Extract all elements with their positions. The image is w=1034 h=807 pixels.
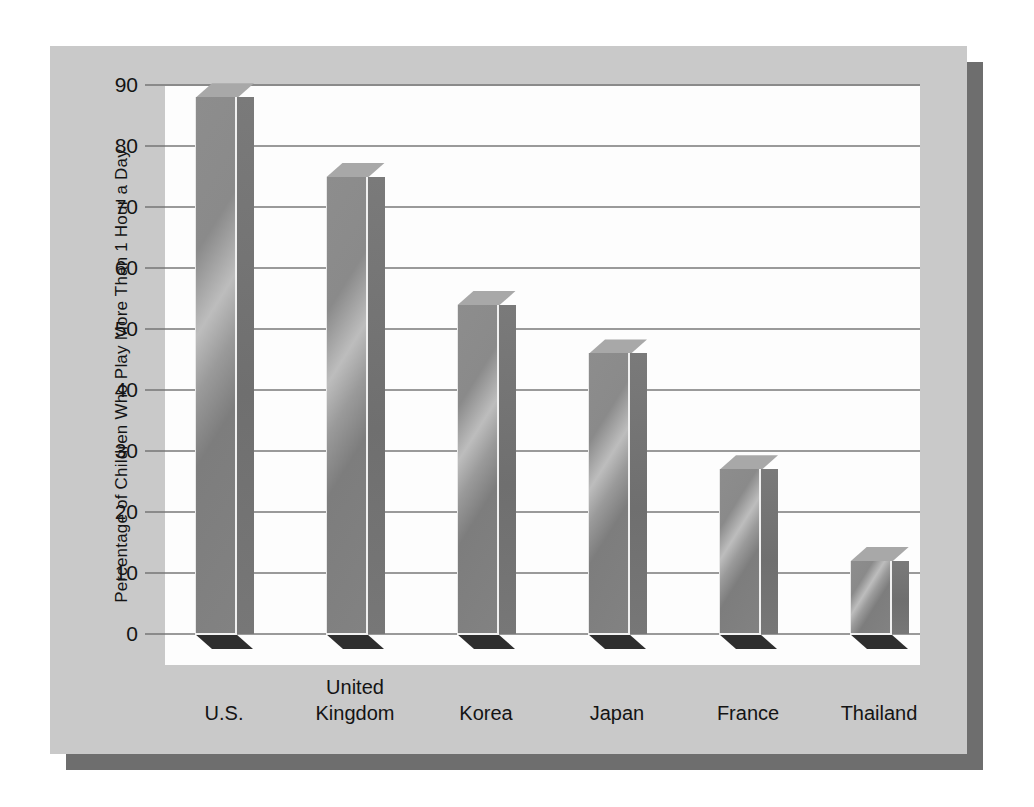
plot-area xyxy=(165,85,920,665)
y-tick-label: 20 xyxy=(98,500,138,524)
bar xyxy=(326,163,386,650)
bar-top-face xyxy=(195,83,254,98)
bar-top-face xyxy=(719,455,778,470)
bar-side-face xyxy=(237,97,254,634)
bar xyxy=(195,83,255,649)
gridline xyxy=(145,84,920,86)
y-tick-mark xyxy=(145,267,165,269)
bar-front-face xyxy=(850,561,890,634)
y-tick-mark xyxy=(145,511,165,513)
x-tick-label-line: Japan xyxy=(542,700,692,726)
bar xyxy=(850,547,910,649)
x-tick-label: U.S. xyxy=(149,700,299,726)
bar-top-face xyxy=(850,547,909,562)
x-tick-label-line: U.S. xyxy=(149,700,299,726)
bar-base-highlight xyxy=(850,633,892,635)
bar-base xyxy=(719,634,777,649)
x-tick-label-line: United xyxy=(280,674,430,700)
bar-front-face xyxy=(326,177,366,635)
x-tick-label-line: Korea xyxy=(411,700,561,726)
bar-base xyxy=(195,634,253,649)
bar-base-highlight xyxy=(457,633,499,635)
gridline xyxy=(165,572,920,574)
y-tick-label: 50 xyxy=(98,317,138,341)
y-tick-mark xyxy=(145,206,165,208)
gridline xyxy=(165,389,920,391)
y-tick-label: 60 xyxy=(98,256,138,280)
y-tick-mark xyxy=(145,450,165,452)
y-tick-mark xyxy=(145,572,165,574)
bar-front-face xyxy=(457,305,497,634)
bar-front-face xyxy=(195,97,235,634)
bar-base xyxy=(457,634,515,649)
bar-top-face xyxy=(588,339,647,354)
gridline xyxy=(165,511,920,513)
y-tick-label: 80 xyxy=(98,134,138,158)
x-tick-label: Japan xyxy=(542,700,692,726)
x-tick-label: Thailand xyxy=(804,700,954,726)
bar-base-highlight xyxy=(719,633,761,635)
x-tick-label: UnitedKingdom xyxy=(280,674,430,726)
bar-top-face xyxy=(457,291,516,306)
bar-front-face xyxy=(719,469,759,634)
x-tick-label: Korea xyxy=(411,700,561,726)
gridline xyxy=(165,328,920,330)
bar-top-face xyxy=(326,163,385,178)
panel-shadow-right xyxy=(967,62,983,770)
x-tick-label-line: Thailand xyxy=(804,700,954,726)
bar-side-face xyxy=(368,177,385,635)
bar-side-face xyxy=(761,469,778,634)
chart-figure: Percentage of Children Who Play More Tha… xyxy=(0,0,1034,807)
chart-panel: Percentage of Children Who Play More Tha… xyxy=(50,46,967,754)
bar-base-highlight xyxy=(195,633,237,635)
bar-base xyxy=(588,634,646,649)
bar xyxy=(719,455,779,649)
bar-base xyxy=(850,634,908,649)
gridline xyxy=(165,450,920,452)
gridline xyxy=(165,206,920,208)
y-tick-label: 30 xyxy=(98,439,138,463)
bar-side-face xyxy=(499,305,516,634)
y-tick-mark xyxy=(145,633,165,635)
bar-side-face xyxy=(630,353,647,634)
y-axis-title: Percentage of Children Who Play More Tha… xyxy=(112,76,132,676)
y-tick-label: 40 xyxy=(98,378,138,402)
x-tick-label-line: Kingdom xyxy=(280,700,430,726)
bar xyxy=(588,339,648,649)
y-tick-label: 90 xyxy=(98,73,138,97)
panel-shadow-bottom xyxy=(66,754,983,770)
y-tick-label: 0 xyxy=(98,622,138,646)
gridline xyxy=(165,145,920,147)
y-tick-label: 70 xyxy=(98,195,138,219)
bar-base-highlight xyxy=(588,633,630,635)
bar xyxy=(457,291,517,649)
bar-base xyxy=(326,634,384,649)
y-tick-label: 10 xyxy=(98,561,138,585)
bar-base-highlight xyxy=(326,633,368,635)
x-tick-label: France xyxy=(673,700,823,726)
bar-side-face xyxy=(892,561,909,634)
bar-front-face xyxy=(588,353,628,634)
y-tick-mark xyxy=(145,328,165,330)
y-tick-mark xyxy=(145,389,165,391)
gridline xyxy=(165,633,920,635)
gridline xyxy=(165,267,920,269)
y-tick-mark xyxy=(145,145,165,147)
x-tick-label-line: France xyxy=(673,700,823,726)
